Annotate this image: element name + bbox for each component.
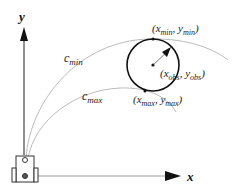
robot-icon: [12, 156, 38, 182]
robot-left-wheel: [12, 168, 16, 182]
y-axis-arrow-icon: [20, 27, 28, 41]
robot-front-caster: [23, 158, 28, 163]
min-point-dot: [152, 38, 155, 41]
x-axis-arrow-icon: [165, 171, 181, 181]
max-point-dot: [144, 90, 147, 93]
c-min-label: cmin: [64, 51, 83, 67]
robot-right-wheel: [34, 168, 38, 182]
y-axis: y: [17, 9, 28, 155]
x-axis: x: [37, 169, 194, 184]
c-min-curve: [26, 39, 228, 158]
min-point-label: (xmin, ymin): [152, 22, 199, 37]
robot-center: [23, 174, 28, 179]
diagram-canvas: y x cmin cmax (xmin, ymin) (xobs, yobs) …: [0, 0, 233, 189]
x-axis-label: x: [186, 169, 194, 184]
c-max-label: cmax: [82, 89, 102, 105]
y-axis-label: y: [17, 9, 25, 24]
obstacle: [127, 38, 179, 93]
obs-point-label: (xobs, yobs): [160, 67, 205, 82]
max-point-label: (xmax, ymax): [133, 93, 183, 108]
